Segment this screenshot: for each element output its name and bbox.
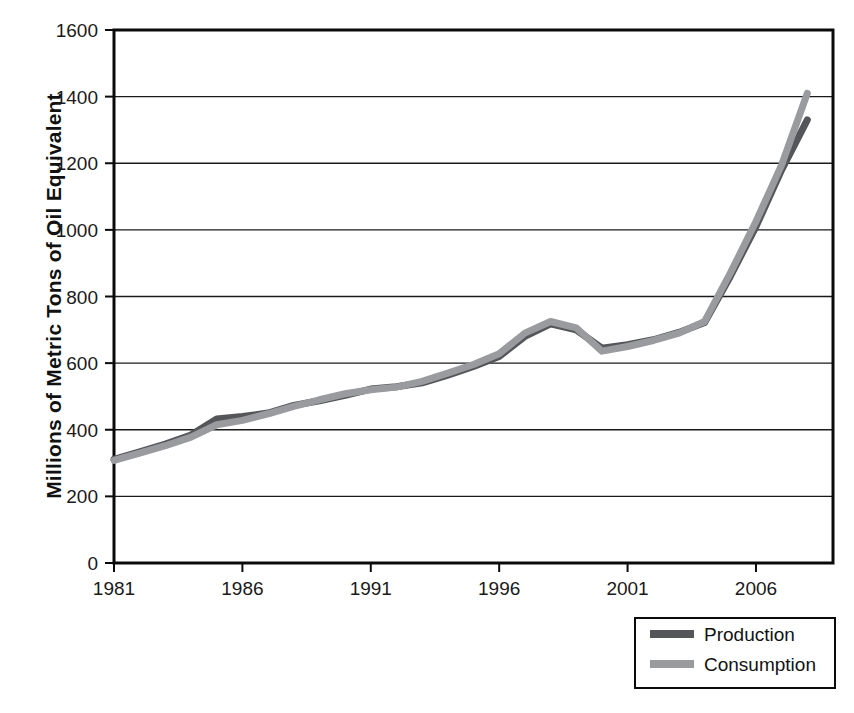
legend-label-production: Production [704,625,795,644]
plot-area [0,0,854,713]
x-tick-label: 1991 [331,579,411,598]
y-tick-label: 400 [36,421,98,440]
x-tick-label: 2001 [588,579,668,598]
x-tick-label: 1986 [202,579,282,598]
x-tick-label: 1981 [74,579,154,598]
line-chart: Millions of Metric Tons of Oil Equivalen… [0,0,854,713]
y-tick-label: 600 [36,354,98,373]
series-line-production [114,120,807,459]
legend-item: Production [636,619,834,649]
y-tick-label: 1000 [36,221,98,240]
legend-swatch-production [650,630,694,638]
y-tick-label: 200 [36,487,98,506]
y-tick-label: 1600 [36,21,98,40]
legend-swatch-consumption [650,660,694,668]
y-tick-label: 0 [36,554,98,573]
axis-ticks [105,30,756,572]
gridlines [114,97,833,497]
legend-item: Consumption [636,649,834,679]
y-tick-label: 800 [36,288,98,307]
y-tick-label: 1400 [36,88,98,107]
x-tick-label: 1996 [459,579,539,598]
y-tick-label: 1200 [36,154,98,173]
series-line-consumption [114,93,807,460]
legend-label-consumption: Consumption [704,655,816,674]
chart-legend: Production Consumption [634,617,836,689]
x-tick-label: 2006 [716,579,796,598]
data-series-group [114,93,807,460]
